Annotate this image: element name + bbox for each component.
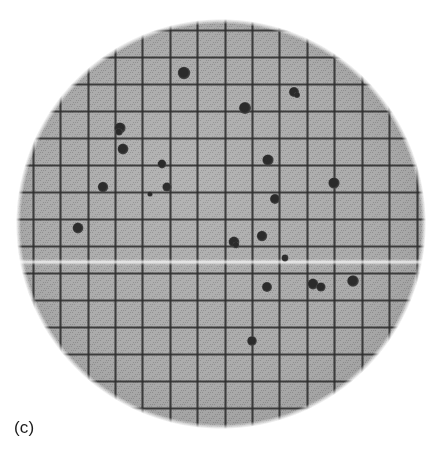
- petri-dish-plate-image: [0, 0, 438, 463]
- figure-panel: (c): [0, 0, 438, 463]
- panel-label: (c): [14, 418, 34, 438]
